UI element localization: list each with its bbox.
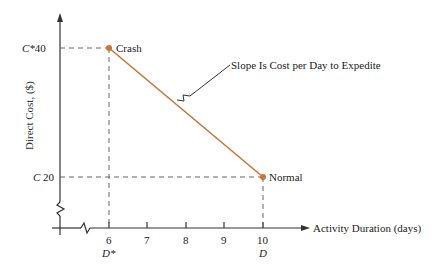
y-axis <box>57 20 64 235</box>
x-axis-arrow-icon <box>301 225 310 231</box>
y-axis-label: Direct Cost, ($) <box>23 81 35 150</box>
x-ticks <box>109 222 263 228</box>
x-sublabel-d: D <box>259 247 267 259</box>
x-tick-10: 10 <box>257 234 268 246</box>
y-axis-arrow-icon <box>57 13 63 22</box>
x-tick-6: 6 <box>106 234 112 246</box>
y-tick-40-value: 40 <box>35 42 46 54</box>
guide-lines <box>60 48 263 228</box>
x-sublabel-d-star: D* <box>102 247 115 259</box>
slope-annotation: Slope Is Cost per Day to Expedite <box>231 59 381 71</box>
x-axis-label: Activity Duration (days) <box>313 222 421 234</box>
x-tick-7: 7 <box>144 234 150 246</box>
normal-point <box>260 174 266 180</box>
crash-label: Crash <box>116 42 142 54</box>
y-tick-40: C*40 <box>22 42 46 54</box>
x-axis <box>52 223 302 233</box>
normal-label: Normal <box>269 171 303 183</box>
c-symbol: C <box>33 171 40 183</box>
x-tick-8: 8 <box>183 234 189 246</box>
x-tick-9: 9 <box>221 234 227 246</box>
crash-point <box>106 45 112 51</box>
y-tick-20: C 20 <box>33 171 54 183</box>
slope-leader-line <box>177 65 230 101</box>
y-tick-20-value: 20 <box>43 171 54 183</box>
c-star-symbol: C* <box>22 42 35 54</box>
